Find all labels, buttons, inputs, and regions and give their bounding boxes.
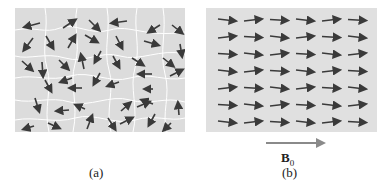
caption-a: (a) (89, 165, 103, 181)
panel-a-random-domains (15, 8, 185, 132)
field-symbol: B (281, 150, 290, 165)
field-arrow-icon (262, 137, 332, 149)
random-domains-graphic (15, 8, 185, 132)
aligned-domains-graphic (206, 8, 377, 132)
panel-b-aligned-domains (206, 8, 377, 132)
caption-b: (b) (282, 165, 297, 181)
